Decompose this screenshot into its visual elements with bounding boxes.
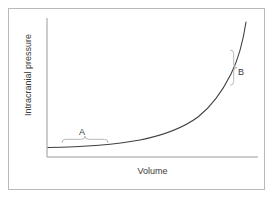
region-label-a: A <box>79 128 85 137</box>
y-axis-label-container: Intracranial pressure <box>0 0 56 150</box>
region-label-b: B <box>238 68 244 77</box>
x-axis-label: Volume <box>47 166 258 176</box>
brace-a <box>62 136 108 142</box>
y-axis-label: Intracranial pressure <box>23 34 33 116</box>
pressure-volume-curve <box>48 22 246 148</box>
chart-figure: Intracranial pressure Volume A B <box>0 0 274 200</box>
